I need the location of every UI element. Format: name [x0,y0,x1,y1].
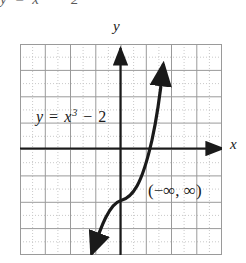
interval-annotation: (−∞, ∞) [148,181,202,201]
equation-lhs: y [36,108,44,125]
equation-equals: = [49,108,59,125]
curve-arrow-lower-left [92,246,95,254]
equation-constant: 2 [98,108,107,125]
equation-minus: − [83,108,93,125]
curve-arrow-upper-right [162,64,163,74]
equation-exponent: 3 [72,107,78,118]
equation-annotation: y = x3 − 2 [36,107,107,126]
y-axis-label: y [113,18,120,35]
cubic-curve [93,68,164,252]
clipped-header-content: y = x³ − 2 [0,0,81,7]
clipped-header-text: y = x³ − 2 [0,0,246,9]
graph-svg [20,44,222,255]
math-figure: y = x³ − 2 y x [0,0,246,263]
x-axis-label: x [230,136,237,153]
coordinate-plot [20,44,222,255]
